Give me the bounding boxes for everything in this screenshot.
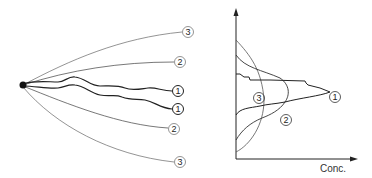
label-1-upper: 1 bbox=[173, 86, 184, 97]
svg-text:3: 3 bbox=[185, 27, 190, 37]
trajectory-3-lower bbox=[23, 87, 174, 162]
curve-label-1: 1 bbox=[330, 92, 341, 103]
label-2-lower: 2 bbox=[169, 124, 180, 135]
y-axis-arrow-icon bbox=[234, 8, 239, 16]
plume-diagram: 3 2 1 1 2 3 Conc. bbox=[0, 0, 372, 178]
right-panel: Conc. 3 2 1 bbox=[234, 8, 359, 174]
x-axis-label: Conc. bbox=[320, 163, 346, 174]
trajectory-3-upper bbox=[23, 32, 182, 85]
svg-text:3: 3 bbox=[256, 93, 261, 103]
curve-1 bbox=[236, 74, 330, 115]
trajectory-2-lower bbox=[23, 86, 168, 128]
label-1-lower: 1 bbox=[173, 104, 184, 115]
svg-text:2: 2 bbox=[177, 57, 182, 67]
label-3-upper: 3 bbox=[183, 27, 194, 38]
curve-label-3: 3 bbox=[254, 93, 265, 104]
label-3-lower: 3 bbox=[175, 157, 186, 168]
svg-text:1: 1 bbox=[175, 86, 180, 96]
source-point bbox=[20, 82, 27, 89]
left-panel: 3 2 1 1 2 3 bbox=[20, 27, 194, 168]
svg-text:2: 2 bbox=[171, 124, 176, 134]
curve-2 bbox=[236, 55, 288, 140]
svg-text:3: 3 bbox=[177, 157, 182, 167]
svg-text:2: 2 bbox=[283, 115, 288, 125]
svg-text:1: 1 bbox=[332, 92, 337, 102]
x-axis-arrow-icon bbox=[350, 157, 358, 162]
trajectory-1-upper bbox=[23, 77, 172, 91]
label-2-upper: 2 bbox=[175, 57, 186, 68]
curve-label-2: 2 bbox=[281, 115, 292, 126]
svg-text:1: 1 bbox=[175, 104, 180, 114]
